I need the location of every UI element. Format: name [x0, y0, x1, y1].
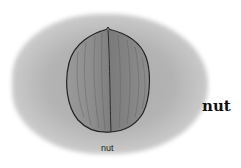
- walnut-icon: [64, 27, 152, 134]
- flashcard-canvas: nut nut: [0, 0, 241, 168]
- word-title: nut: [202, 97, 231, 115]
- image-caption: nut: [101, 143, 114, 153]
